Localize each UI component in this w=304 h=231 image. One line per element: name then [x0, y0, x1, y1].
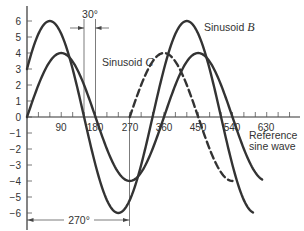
y-tick-label: 0	[15, 112, 21, 123]
y-tick-label: 3	[15, 64, 21, 75]
y-tick-label: 4	[15, 48, 21, 59]
y-tick-label: −2	[10, 144, 22, 155]
arrow-left-icon	[96, 26, 102, 30]
dim-30-label: 30°	[82, 8, 98, 20]
y-tick-label: −1	[10, 128, 22, 139]
sinusoid-b-label: Sinusoid B	[204, 20, 255, 34]
y-tick-label: −6	[10, 208, 22, 219]
sinusoid-c-label-var: C	[145, 55, 154, 69]
y-tick-labels: 6 5 4 3 2 1 0 −1 −2 −3 −4 −5 −6	[10, 16, 22, 219]
y-tick-label: 6	[15, 16, 21, 27]
y-tick-label: 1	[15, 96, 21, 107]
sinusoid-b-label-text: Sinusoid	[204, 21, 247, 33]
x-tick-label: 270	[122, 122, 139, 133]
arrow-left-icon	[28, 218, 34, 222]
sinusoid-c-label: Sinusoid C	[102, 55, 154, 69]
y-tick-label: −4	[10, 176, 22, 187]
phase-shift-chart: 90 180 270 360 450 540 630 6 5 4 3 2 1 0…	[0, 0, 304, 231]
reference-sine-wave-label-line2: sine wave	[249, 140, 296, 152]
arrow-right-icon	[123, 218, 129, 222]
sinusoid-b-label-var: B	[247, 20, 255, 34]
y-tick-label: 5	[15, 32, 21, 43]
x-tick-label: 90	[55, 122, 67, 133]
arrow-right-icon	[78, 26, 84, 30]
y-tick-label: −3	[10, 160, 22, 171]
sinusoid-c-label-text: Sinusoid	[102, 56, 145, 68]
y-tick-label: −5	[10, 192, 22, 203]
y-tick-label: 2	[15, 80, 21, 91]
dim-270-label: 270°	[68, 214, 90, 226]
